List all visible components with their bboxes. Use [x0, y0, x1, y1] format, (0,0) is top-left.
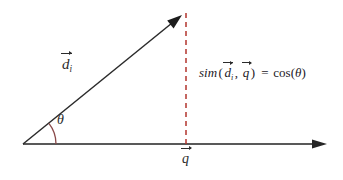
document-vector-arrowhead: [167, 15, 182, 28]
angle-arc: [49, 123, 56, 144]
document-vector-label: d i: [62, 57, 72, 75]
vector-arrow-icon: [242, 62, 252, 63]
diagram-canvas: [0, 0, 343, 180]
angle-label: θ: [57, 113, 64, 127]
formula-cos-name: cos: [273, 65, 290, 80]
document-vector-line: [23, 21, 175, 144]
formula-open-paren: (: [217, 65, 224, 80]
formula-equals: =: [260, 65, 270, 80]
vector-arrow-icon: [223, 62, 233, 63]
similarity-formula: sim(di, q) = cos(θ): [199, 66, 306, 82]
formula-comma: ,: [233, 65, 239, 80]
d-symbol-letter: d: [62, 56, 70, 72]
formula-arg2-letter: q: [243, 65, 250, 80]
q-symbol-letter: q: [182, 151, 189, 166]
d-vector-symbol: d: [62, 57, 70, 72]
query-axis-arrowhead: [312, 139, 327, 148]
vector-arrow-icon: [181, 148, 191, 149]
formula-cos-close: ): [301, 65, 305, 80]
formula-arg1-vector: d: [224, 66, 231, 79]
formula-function-name: sim: [199, 65, 217, 80]
q-vector-symbol: q: [182, 152, 189, 166]
vector-diagram-figure: d i θ q sim(di, q) = cos(θ): [0, 0, 343, 180]
query-axis: [23, 139, 327, 148]
document-vector: [23, 15, 182, 144]
formula-close-paren: ): [249, 65, 256, 80]
query-vector-label: q: [182, 152, 189, 166]
formula-arg2-vector: q: [243, 66, 250, 79]
formula-arg1-letter: d: [224, 65, 231, 80]
vector-arrow-icon: [61, 53, 72, 54]
